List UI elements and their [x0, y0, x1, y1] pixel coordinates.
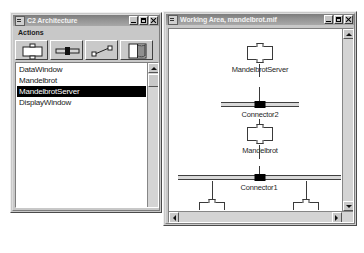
arch-menubar: Actions: [14, 28, 158, 38]
architecture-list-items: DataWindow Mandelbrot MandelbrotServer D…: [17, 64, 146, 108]
close-button[interactable]: [149, 16, 158, 25]
wire-mandelbrot-to-connector1: [259, 145, 260, 159]
working-area-window[interactable]: Working Area, mandelbrot.mif MandelbrotS…: [163, 11, 357, 226]
component-top-port: [257, 124, 264, 128]
c2-architecture-window[interactable]: C2 Architecture Actions: [10, 12, 162, 213]
work-window-title: Working Area, mandelbrot.mif: [180, 14, 324, 25]
menu-item-actions[interactable]: Actions: [16, 28, 46, 38]
component-glyph: [247, 127, 273, 141]
book-tool-button[interactable]: [120, 40, 153, 60]
canvas-horizontal-scrollbar[interactable]: [169, 211, 353, 222]
list-item[interactable]: DisplayWindow: [17, 97, 146, 108]
list-vertical-scrollbar[interactable]: [147, 63, 158, 207]
scroll-down-arrow-icon[interactable]: [343, 201, 354, 211]
minimize-button[interactable]: [324, 15, 333, 24]
diagram-component-mandelbrotserver[interactable]: MandelbrotServer: [225, 46, 295, 74]
diagram-component-mandelbrot[interactable]: Mandelbrot: [225, 127, 295, 155]
component-top-port: [303, 199, 310, 203]
list-item[interactable]: MandelbrotServer: [17, 86, 146, 97]
diagram-connector-connector2[interactable]: [221, 102, 299, 107]
wire-connector1-to-datawindow: [306, 181, 307, 199]
architecture-list[interactable]: DataWindow Mandelbrot MandelbrotServer D…: [15, 62, 159, 208]
scroll-left-arrow-icon[interactable]: [169, 212, 179, 223]
component-bottom-port: [257, 59, 264, 63]
canvas-vertical-scrollbar[interactable]: [342, 29, 353, 222]
link-icon: [89, 43, 116, 59]
working-area-canvas[interactable]: MandelbrotServer Connector2 Mandelbrot: [168, 28, 354, 223]
app-icon[interactable]: [15, 16, 25, 26]
scroll-up-arrow-icon[interactable]: [343, 29, 354, 39]
work-titlebar[interactable]: Working Area, mandelbrot.mif: [166, 14, 354, 25]
minimize-button[interactable]: [129, 16, 138, 25]
connector-label: Connector2: [220, 110, 300, 119]
arch-titlebar[interactable]: C2 Architecture: [13, 15, 159, 26]
wire-label-to-connector2: [259, 87, 260, 102]
connector-icon: [54, 43, 81, 59]
link-tool-button[interactable]: [85, 40, 118, 60]
component-bottom-port: [257, 140, 264, 144]
wire-connector1-to-displaywindow: [212, 181, 213, 199]
component-top-port: [257, 43, 264, 47]
component-glyph: [247, 46, 273, 60]
connector-label: Connector1: [219, 183, 299, 192]
close-button[interactable]: [344, 15, 353, 24]
architecture-diagram: MandelbrotServer Connector2 Mandelbrot: [170, 30, 341, 210]
maximize-button[interactable]: [334, 15, 343, 24]
scroll-up-arrow-icon[interactable]: [148, 63, 159, 73]
connector-knob: [255, 101, 266, 108]
connector-knob: [254, 174, 265, 181]
wire-server-to-connector2: [259, 64, 260, 77]
diagram-component-displaywindow[interactable]: DisplayWindow: [178, 202, 246, 210]
component-glyph: [199, 202, 225, 210]
arch-window-title: C2 Architecture: [27, 15, 129, 26]
arch-toolbar: [14, 39, 160, 61]
work-window-controls: [324, 15, 353, 24]
arch-window-controls: [129, 16, 158, 25]
list-item[interactable]: Mandelbrot: [17, 75, 146, 86]
app-icon[interactable]: [168, 15, 178, 25]
book-icon: [124, 43, 151, 59]
connector-tool-button[interactable]: [50, 40, 83, 60]
list-item[interactable]: DataWindow: [17, 64, 146, 75]
component-icon: [19, 43, 46, 59]
component-top-port: [209, 199, 216, 203]
maximize-button[interactable]: [139, 16, 148, 25]
component-glyph: [293, 202, 319, 210]
scroll-right-arrow-icon[interactable]: [332, 212, 342, 223]
component-tool-button[interactable]: [15, 40, 48, 60]
diagram-component-datawindow[interactable]: DataWindow: [274, 202, 338, 210]
diagram-connector-connector1[interactable]: [178, 175, 341, 180]
scroll-thumb[interactable]: [148, 74, 159, 87]
component-label: MandelbrotServer: [225, 65, 295, 74]
component-label: Mandelbrot: [225, 146, 295, 155]
